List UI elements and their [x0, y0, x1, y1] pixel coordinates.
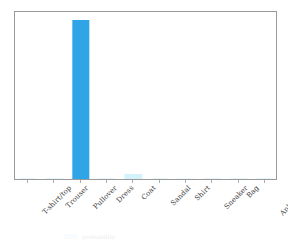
bar-slot	[94, 12, 120, 179]
bar-slot	[15, 12, 41, 179]
bar	[125, 174, 142, 179]
bar	[177, 178, 194, 179]
x-tick-mark	[27, 180, 28, 183]
x-tick-label-ankle-boot: Ankle boot	[278, 184, 288, 217]
bar	[98, 178, 115, 179]
bar	[46, 178, 63, 179]
bar-slot	[173, 12, 199, 179]
bar	[151, 178, 168, 179]
legend-clipped: probability	[64, 233, 234, 240]
x-tick-label-coat: Coat	[140, 184, 158, 202]
bar	[72, 20, 89, 179]
x-tick-mark	[53, 180, 54, 183]
x-tick-label-sandal: Sandal	[169, 184, 192, 207]
x-tick-label-sneaker: Sneaker	[223, 184, 250, 211]
x-tick-mark	[132, 180, 133, 183]
bar	[204, 178, 221, 179]
x-tick-label-dress: Dress	[115, 184, 135, 204]
x-tick-label-shirt: Shirt	[193, 184, 212, 203]
legend-swatch	[64, 234, 77, 239]
x-tick-mark	[264, 180, 265, 183]
bar-slot	[68, 12, 94, 179]
x-tick-mark	[185, 180, 186, 183]
bar-slot	[252, 12, 278, 179]
bar-slot	[199, 12, 225, 179]
bar-slot	[120, 12, 146, 179]
chart-axes	[14, 11, 277, 180]
legend-label: probability	[82, 233, 115, 240]
x-tick-mark	[80, 180, 81, 183]
bar	[230, 178, 247, 179]
bar-slot	[225, 12, 251, 179]
plot-area	[15, 12, 276, 179]
bar	[256, 178, 273, 179]
x-tick-mark	[106, 180, 107, 183]
bar-slot	[41, 12, 67, 179]
bar	[19, 178, 36, 179]
x-tick-mark	[211, 180, 212, 183]
x-tick-mark	[159, 180, 160, 183]
bar-slot	[147, 12, 173, 179]
x-tick-mark	[238, 180, 239, 183]
figure-canvas: T-shirt/topTrouserPulloverDressCoatSanda…	[0, 0, 288, 241]
